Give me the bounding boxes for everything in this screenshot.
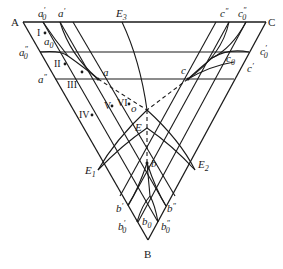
label-c0: c0	[226, 52, 235, 67]
label-o: o	[131, 102, 137, 114]
path-a0-to-a	[40, 52, 98, 80]
path-b0double	[150, 196, 158, 222]
point-b	[146, 162, 149, 165]
label-a0-prime: a′0	[38, 6, 46, 22]
dot-region-i	[44, 32, 47, 35]
label-b0-double: b″0	[161, 219, 171, 235]
label-c0-prime: c′0	[260, 44, 268, 60]
vertex-c-label: C	[268, 16, 275, 28]
label-e3: E3	[115, 7, 127, 22]
edge-cb	[148, 22, 266, 240]
label-a-double: a″	[38, 73, 48, 85]
label-a: a	[103, 66, 109, 78]
top-labels: a′0 a′ E3 c″ c″0	[38, 6, 247, 22]
edge-ab	[23, 22, 148, 240]
region-vi-label: VI	[117, 97, 128, 108]
label-c-prime: c′	[247, 62, 254, 74]
region-i-label: I	[37, 27, 40, 38]
dashed-c-o	[147, 79, 188, 110]
dot-region-iv	[91, 114, 94, 117]
label-a-prime: a′	[58, 7, 66, 19]
dot-region-ii	[64, 63, 67, 66]
center-labels: o E b E1 E2	[84, 102, 209, 179]
path-aprime-to-a	[60, 22, 98, 79]
label-b0: b0	[142, 215, 152, 230]
region-v-label: V	[104, 100, 112, 111]
label-e1: E1	[84, 164, 96, 179]
dot-region-vi	[128, 103, 131, 106]
label-e2: E2	[197, 158, 209, 173]
region-iii-label: III	[67, 79, 77, 90]
right-labels: c c0 c′0 c′	[181, 44, 268, 76]
label-a0-double: a″0	[19, 45, 29, 61]
dot-region-iii	[81, 71, 84, 74]
label-c0-double: c″0	[238, 6, 247, 22]
label-b: b	[151, 157, 157, 169]
ternary-phase-diagram: A C B a′0 a′ E3 c″ c″0 a0 a″0 a″ a c c0 …	[0, 0, 283, 269]
region-ii-label: II	[54, 58, 61, 69]
label-c: c	[181, 64, 186, 76]
vertex-b-label: B	[144, 248, 151, 260]
label-b-prime: b′	[116, 202, 124, 214]
label-b-double: b″	[167, 202, 177, 214]
region-iv-label: IV	[79, 109, 90, 120]
point-a	[97, 78, 100, 81]
label-e: E	[134, 121, 142, 133]
path-cprime-to-c	[188, 62, 234, 79]
point-c	[187, 78, 190, 81]
label-b0-prime: b′0	[118, 219, 126, 235]
label-c-double: c″	[220, 7, 229, 19]
vertex-a-label: A	[11, 16, 19, 28]
